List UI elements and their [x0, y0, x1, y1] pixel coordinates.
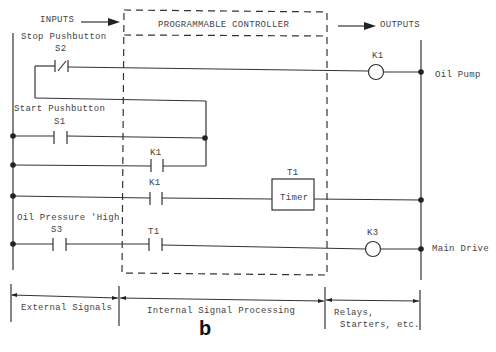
coil-k3-label: K3 — [367, 228, 378, 238]
relays-label-1: Relays, — [334, 308, 374, 318]
contact-s2-label: S2 — [55, 44, 66, 54]
inputs-label: INPUTS — [40, 15, 74, 25]
start-pushbutton-label: Start Pushbutton — [14, 104, 105, 114]
timer-t1-label: T1 — [287, 168, 298, 178]
coil-k1 — [369, 65, 384, 80]
timer-box-text: Timer — [280, 193, 309, 203]
outputs-label: OUTPUTS — [380, 20, 420, 30]
oil-pump-label: Oil Pump — [435, 70, 481, 80]
ladder-diagram — [0, 0, 496, 352]
contact-s3-label: S3 — [51, 225, 62, 235]
coil-k1-label: K1 — [372, 51, 383, 61]
external-signals-label: External Signals — [21, 303, 112, 313]
contact-t1-label: T1 — [148, 227, 159, 237]
figure-label: b — [199, 317, 211, 340]
controller-title: PROGRAMMABLE CONTROLLER — [158, 20, 289, 30]
coil-k3 — [366, 242, 381, 257]
contact-k1-timer-label: K1 — [149, 178, 160, 188]
relays-label-2: Starters, etc. — [340, 320, 420, 330]
internal-processing-label: Internal Signal Processing — [147, 306, 295, 316]
stop-pushbutton-label: Stop Pushbutton — [21, 32, 107, 42]
contact-k1-seal-label: K1 — [150, 148, 161, 158]
oil-pressure-label: Oil Pressure 'High — [17, 213, 120, 223]
contact-s1-label: S1 — [54, 117, 65, 127]
main-drive-label: Main Drive — [432, 244, 489, 254]
